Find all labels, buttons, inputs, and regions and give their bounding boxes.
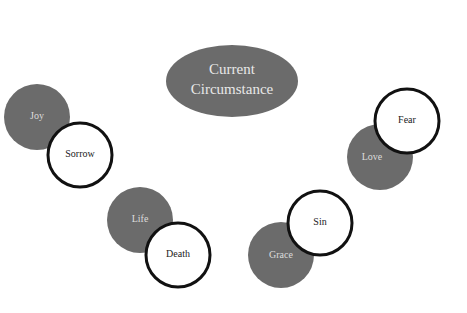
fear-label: Fear bbox=[398, 114, 416, 125]
life-label: Life bbox=[132, 213, 149, 224]
pair-grace-sin: Grace Sin bbox=[248, 191, 352, 288]
sorrow-label: Sorrow bbox=[65, 148, 95, 159]
sin-label: Sin bbox=[313, 216, 326, 227]
center-label-line1: Current bbox=[209, 61, 256, 77]
pair-life-death: Life Death bbox=[107, 187, 210, 287]
love-label: Love bbox=[362, 151, 383, 162]
death-label: Death bbox=[166, 248, 190, 259]
current-circumstance-node: Current Circumstance bbox=[166, 45, 298, 117]
pair-love-fear: Love Fear bbox=[347, 89, 439, 190]
grace-label: Grace bbox=[269, 249, 293, 260]
joy-label: Joy bbox=[30, 110, 44, 121]
center-label-line2: Circumstance bbox=[191, 81, 274, 97]
pair-joy-sorrow: Joy Sorrow bbox=[4, 84, 112, 187]
diagram-canvas: Current Circumstance Joy Sorrow Life Dea… bbox=[0, 0, 467, 313]
